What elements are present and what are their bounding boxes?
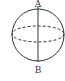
sphere-diagram: A B — [0, 0, 65, 81]
label-B: B — [35, 65, 42, 75]
label-A: A — [34, 0, 42, 9]
